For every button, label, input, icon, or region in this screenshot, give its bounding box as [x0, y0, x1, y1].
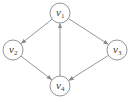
- edges-group: [21, 18, 109, 80]
- node-subscript: 1: [61, 12, 65, 20]
- node-subscript: 2: [14, 49, 18, 57]
- edge-v2-to-v4: [21, 56, 52, 80]
- edge-v1-to-v2: [21, 19, 52, 43]
- node-v4: v4: [50, 76, 70, 96]
- edge-v1-to-v3: [68, 18, 108, 44]
- node-subscript: 4: [61, 85, 65, 93]
- edge-v3-to-v4: [69, 55, 109, 80]
- nodes-group: v1v2v3v4: [3, 3, 127, 96]
- node-v2: v2: [3, 40, 23, 60]
- directed-graph: v1v2v3v4: [0, 0, 130, 102]
- node-subscript: 3: [118, 49, 122, 57]
- node-v3: v3: [107, 40, 127, 60]
- node-v1: v1: [50, 3, 70, 23]
